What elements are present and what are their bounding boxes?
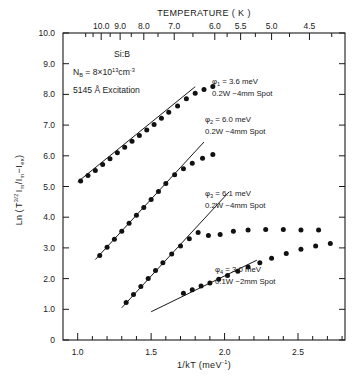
data-point bbox=[134, 213, 139, 218]
y-tick-label: 9.0 bbox=[43, 59, 55, 69]
data-point bbox=[138, 284, 143, 289]
data-point bbox=[246, 228, 251, 233]
data-point bbox=[122, 145, 127, 150]
data-point bbox=[178, 244, 183, 249]
y-tick-label: 6.0 bbox=[43, 151, 55, 161]
data-point bbox=[97, 253, 102, 258]
series-power-spot-phi_1: 0.2W ~4mm Spot bbox=[212, 89, 273, 98]
data-point bbox=[196, 230, 201, 235]
data-point bbox=[144, 128, 149, 133]
series-power-spot-phi_2: 0.2W ~4mm Spot bbox=[205, 127, 266, 136]
data-point bbox=[108, 156, 113, 161]
data-point bbox=[206, 233, 211, 238]
data-point bbox=[181, 166, 186, 171]
top-tick-label: 5.5 bbox=[235, 21, 247, 31]
x-tick-label: 2.0 bbox=[219, 347, 231, 357]
data-point bbox=[153, 268, 158, 273]
data-point bbox=[149, 197, 154, 202]
data-point bbox=[127, 221, 132, 226]
data-point bbox=[160, 260, 165, 265]
data-point bbox=[298, 247, 303, 252]
data-point bbox=[105, 245, 110, 250]
top-tick-label: 5.0 bbox=[266, 21, 278, 31]
data-point bbox=[231, 229, 236, 234]
sample-excitation: 5145 Å Excitation bbox=[73, 85, 140, 95]
data-point bbox=[152, 122, 157, 127]
data-point bbox=[298, 228, 303, 233]
y-tick-label: 4.0 bbox=[43, 212, 55, 222]
data-point bbox=[199, 283, 204, 288]
y-tick-label: 8.0 bbox=[43, 89, 55, 99]
data-point bbox=[130, 139, 135, 144]
x-tick-label: 2.5 bbox=[292, 347, 304, 357]
y-axis-title: Ln(T3/2Im/Im−Iex) bbox=[13, 155, 25, 226]
top-tick-label: 4.5 bbox=[304, 21, 316, 31]
y-tick-label: 10.0 bbox=[38, 28, 55, 38]
top-axis-title: TEMPERATURE ( K ) bbox=[157, 8, 251, 18]
data-point bbox=[316, 228, 321, 233]
top-tick-label: 8.0 bbox=[138, 21, 150, 31]
arrhenius-plot: TEMPERATURE ( K ) 10.09.08.07.06.05.55.0… bbox=[0, 0, 359, 378]
data-point bbox=[281, 227, 286, 232]
data-point bbox=[156, 189, 161, 194]
data-point bbox=[85, 173, 90, 178]
y-tick-label: 2.0 bbox=[43, 274, 55, 284]
data-point bbox=[190, 287, 195, 292]
y-tick-label: 5.0 bbox=[43, 182, 55, 192]
data-point bbox=[93, 168, 98, 173]
series-power-spot-phi_3: 0.2W ~4mm Spot bbox=[205, 201, 266, 210]
sample-material: Si:B bbox=[114, 49, 130, 59]
top-tick-label: 9.0 bbox=[114, 21, 126, 31]
data-point bbox=[207, 280, 212, 285]
data-point bbox=[159, 116, 164, 121]
data-point bbox=[124, 300, 129, 305]
data-point bbox=[263, 227, 268, 232]
top-tick-label: 7.0 bbox=[168, 21, 180, 31]
data-point bbox=[100, 162, 105, 167]
data-point bbox=[131, 292, 136, 297]
data-point bbox=[163, 181, 168, 186]
data-point bbox=[269, 256, 274, 261]
top-tick-label: 6.0 bbox=[209, 21, 221, 31]
data-point bbox=[169, 252, 174, 257]
data-point bbox=[166, 110, 171, 115]
x-tick-label: 1.0 bbox=[72, 347, 84, 357]
data-point bbox=[146, 276, 151, 281]
data-point bbox=[328, 241, 333, 246]
sample-density: NB = 8×1013cm-3 bbox=[73, 67, 135, 79]
y-tick-label: 7.0 bbox=[43, 120, 55, 130]
data-point bbox=[119, 229, 124, 234]
data-point bbox=[115, 150, 120, 155]
y-axis-title-text: Ln(T3/2Im/Im−Iex) bbox=[13, 155, 25, 226]
data-point bbox=[218, 232, 223, 237]
data-point bbox=[172, 172, 177, 177]
data-point bbox=[175, 104, 180, 109]
data-point bbox=[78, 178, 83, 183]
data-point bbox=[284, 251, 289, 256]
data-point bbox=[313, 244, 318, 249]
data-point bbox=[210, 152, 215, 157]
data-point bbox=[181, 291, 186, 296]
data-point bbox=[193, 91, 198, 96]
data-point bbox=[141, 205, 146, 210]
y-tick-label: 1.0 bbox=[43, 304, 55, 314]
data-point bbox=[112, 237, 117, 242]
top-tick-label: 10.0 bbox=[93, 21, 110, 31]
y-tick-label: 0 bbox=[50, 335, 55, 345]
data-point bbox=[184, 96, 189, 101]
x-tick-label: 1.5 bbox=[145, 347, 157, 357]
data-point bbox=[200, 156, 205, 161]
data-point bbox=[137, 133, 142, 138]
figure-root: TEMPERATURE ( K ) 10.09.08.07.06.05.55.0… bbox=[0, 0, 359, 378]
y-tick-label: 3.0 bbox=[43, 243, 55, 253]
data-point bbox=[190, 161, 195, 166]
data-point bbox=[202, 87, 207, 92]
data-point bbox=[187, 236, 192, 241]
series-power-spot-phi_4: 0.1W ~2mm Spot bbox=[215, 277, 276, 286]
